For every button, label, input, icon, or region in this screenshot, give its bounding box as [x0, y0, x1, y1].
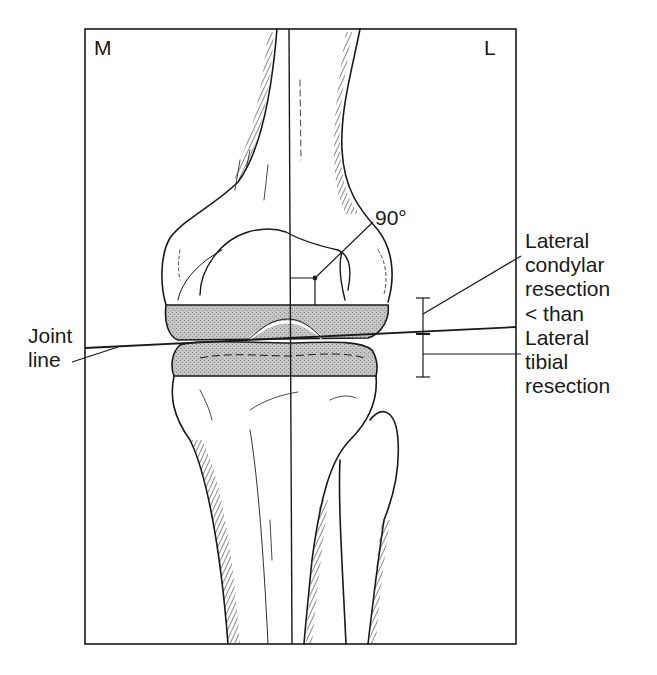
annotation-line2: condylar: [525, 253, 610, 277]
annotation-line1: Lateral: [525, 229, 610, 253]
annotation-line3: resection: [525, 277, 610, 301]
resection-annotation: Lateral condylar resection < than Latera…: [525, 229, 610, 398]
annotation-line7: resection: [525, 374, 610, 398]
joint-line-label-line2: line: [28, 348, 72, 372]
right-angle-marker: [290, 222, 373, 305]
angle-label: 90°: [375, 206, 407, 230]
joint-line-leader: [72, 347, 118, 362]
annotation-line5: Lateral: [525, 326, 610, 350]
annotation-line6: tibial: [525, 350, 610, 374]
tibial-resection-band: [172, 342, 377, 376]
tibia-fibula: [172, 376, 398, 644]
medial-label: M: [94, 36, 112, 60]
joint-line-label-line1: Joint: [28, 324, 72, 348]
joint-line-label: Joint line: [28, 324, 72, 372]
femur: [162, 29, 392, 305]
resection-bracket: [416, 256, 521, 377]
lateral-label: L: [484, 36, 496, 60]
annotation-line4: < than: [525, 302, 610, 326]
